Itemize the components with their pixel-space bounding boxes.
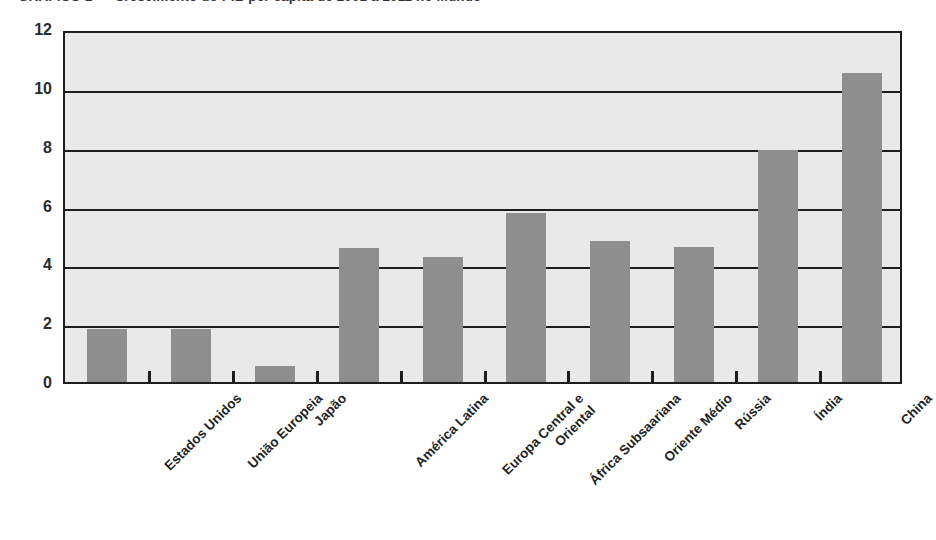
bar[interactable] [171, 329, 211, 382]
x-tick [400, 371, 403, 382]
bar[interactable] [339, 248, 379, 382]
x-category-label: África Subsaariana [586, 390, 685, 489]
bar[interactable] [758, 150, 798, 382]
bar[interactable] [423, 257, 463, 382]
bar[interactable] [674, 247, 714, 382]
y-tick-label-10: 10 [0, 80, 52, 98]
bar[interactable] [842, 73, 882, 382]
plot-inner [65, 33, 900, 382]
x-category-label: Rússia [731, 390, 775, 434]
y-tick-label-0: 0 [0, 374, 52, 392]
y-tick-label-4: 4 [0, 256, 52, 274]
x-category-label: América Latina [411, 390, 492, 471]
x-category-label: Estados Unidos [161, 390, 245, 474]
page-title: GRÁFICO 1Crescimento do PIB per capita d… [18, 0, 898, 9]
title-figure-label: GRÁFICO 1 [18, 0, 92, 4]
bar[interactable] [590, 241, 630, 382]
x-tick [735, 371, 738, 382]
x-category-label: União Europeia [244, 390, 326, 472]
x-tick [148, 371, 151, 382]
bar[interactable] [255, 366, 295, 382]
x-tick [484, 371, 487, 382]
title-text: Crescimento do PIB per capita de 2001 a … [114, 0, 481, 4]
x-tick [316, 371, 319, 382]
bar[interactable] [87, 329, 127, 382]
y-tick-label-6: 6 [0, 198, 52, 216]
x-tick [232, 371, 235, 382]
x-category-label: Europa Central e Oriental [498, 390, 599, 491]
gridline-10 [65, 91, 900, 93]
x-category-label: Índia [811, 390, 845, 424]
x-tick [819, 371, 822, 382]
x-tick [651, 371, 654, 382]
y-tick-label-8: 8 [0, 139, 52, 157]
y-tick-label-12: 12 [0, 21, 52, 39]
y-tick-label-2: 2 [0, 315, 52, 333]
x-category-label: China [897, 390, 936, 429]
plot-area [63, 31, 902, 384]
bar[interactable] [506, 213, 546, 382]
x-tick [567, 371, 570, 382]
